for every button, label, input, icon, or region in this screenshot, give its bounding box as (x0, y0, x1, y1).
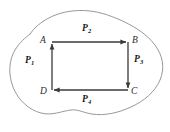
vertex-label-d: D (40, 87, 47, 97)
figure-container: A B C D P1 P2 P3 P4 (0, 0, 170, 132)
path-label-p2: P2 (82, 24, 91, 34)
path-label-p3: P3 (134, 55, 143, 65)
path-label-p1: P1 (25, 56, 34, 66)
path-label-p4: P4 (82, 95, 91, 105)
path-label-p2-subscript: 2 (88, 27, 91, 34)
path-label-p1-subscript: 1 (31, 59, 34, 66)
vertex-label-b: B (132, 36, 138, 46)
path-label-p4-subscript: 4 (88, 98, 91, 105)
path-label-p2-base: P (82, 23, 88, 33)
path-label-p4-base: P (82, 94, 88, 104)
figure-canvas (0, 0, 170, 132)
path-label-p3-subscript: 3 (140, 58, 143, 65)
path-label-p3-base: P (134, 54, 140, 64)
vertex-label-a: A (40, 36, 46, 46)
vertex-label-c: C (131, 87, 137, 97)
path-label-p1-base: P (25, 55, 31, 65)
